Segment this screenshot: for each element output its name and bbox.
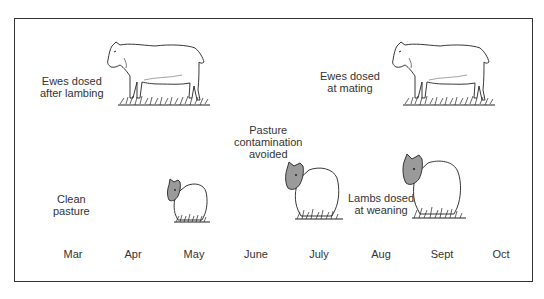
ewe-at-mating-illustration [385, 38, 505, 113]
month-july: July [309, 248, 329, 260]
lamb-icon [285, 158, 351, 226]
label-line: Clean [53, 193, 90, 205]
lamb-icon [166, 176, 218, 228]
month-may: May [184, 248, 205, 260]
label-line: Lambs dosed [348, 192, 414, 204]
label-line: Ewes dosed [40, 75, 104, 87]
label-lambs-at-weaning: Lambs dosed at weaning [348, 192, 414, 216]
label-pasture-contamination-avoided: Pasture contamination avoided [234, 124, 303, 160]
month-mar: Mar [64, 248, 83, 260]
lamb-july-illustration [285, 158, 351, 226]
month-sept: Sept [431, 248, 454, 260]
label-line: avoided [234, 148, 303, 160]
month-oct: Oct [492, 248, 509, 260]
label-line: at weaning [348, 204, 414, 216]
month-june: June [244, 248, 268, 260]
label-line: at mating [320, 82, 380, 94]
label-line: pasture [53, 205, 90, 217]
label-line: Ewes dosed [320, 70, 380, 82]
label-clean-pasture: Clean pasture [53, 193, 90, 217]
lamb-may-illustration [166, 176, 218, 228]
month-apr: Apr [124, 248, 141, 260]
label-ewes-at-mating: Ewes dosed at mating [320, 70, 380, 94]
ewe-after-lambing-illustration [100, 38, 220, 113]
sheep-icon [100, 38, 220, 113]
label-line: after lambing [40, 87, 104, 99]
month-aug: Aug [371, 248, 391, 260]
label-line: Pasture [234, 124, 303, 136]
sheep-icon [385, 38, 505, 113]
label-line: contamination [234, 136, 303, 148]
label-ewes-after-lambing: Ewes dosed after lambing [40, 75, 104, 99]
